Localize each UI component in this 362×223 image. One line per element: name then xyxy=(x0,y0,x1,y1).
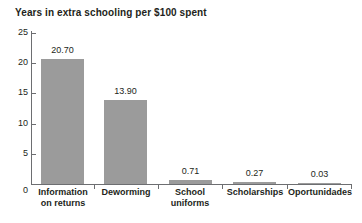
bar-scholarships xyxy=(233,182,276,184)
y-tick-mark-15 xyxy=(32,93,36,94)
y-tick-25: 25 xyxy=(0,28,28,37)
category-separator-1 xyxy=(94,185,95,189)
bar-chart: Years in extra schooling per $100 spent … xyxy=(0,0,362,223)
bar-school-uniforms xyxy=(169,180,212,184)
y-tick-label-0: 0 xyxy=(0,186,28,195)
bar-value-school-uniforms: 0.71 xyxy=(169,167,212,176)
bar-deworming xyxy=(104,100,147,184)
bar-value-oportunidades: 0.03 xyxy=(298,170,341,179)
category-label-oportunidades: Oportunidades xyxy=(283,187,357,198)
category-label-school-uniforms: School uniforms xyxy=(161,187,219,209)
bar-value-information-on-returns: 20.70 xyxy=(41,46,84,55)
bar-information-on-returns xyxy=(41,59,84,184)
y-tick-label-15: 15 xyxy=(2,88,28,97)
x-axis-line xyxy=(31,184,352,185)
y-tick-label-5: 5 xyxy=(2,149,28,158)
y-axis-line xyxy=(31,31,32,184)
y-tick-mark-5 xyxy=(32,154,36,155)
chart-title: Years in extra schooling per $100 spent xyxy=(15,7,207,18)
y-tick-10: 10 xyxy=(0,119,28,128)
y-tick-5: 5 xyxy=(0,149,28,158)
category-label-scholarships: Scholarships xyxy=(219,187,291,198)
category-label-deworming: Deworming xyxy=(97,187,155,198)
bar-value-deworming: 13.90 xyxy=(104,87,147,96)
y-tick-label-10: 10 xyxy=(2,119,28,128)
bar-value-scholarships: 0.27 xyxy=(233,169,276,178)
y-tick-20: 20 xyxy=(0,58,28,67)
y-tick-15: 15 xyxy=(0,88,28,97)
y-tick-label-20: 20 xyxy=(2,58,28,67)
category-separator-2 xyxy=(158,185,159,189)
y-tick-mark-10 xyxy=(32,124,36,125)
bar-oportunidades xyxy=(298,183,341,184)
y-tick-mark-25 xyxy=(32,33,36,34)
y-tick-mark-20 xyxy=(32,63,36,64)
y-tick-label-25: 25 xyxy=(2,28,28,37)
category-label-information-on-returns: Information on returns xyxy=(34,187,92,209)
